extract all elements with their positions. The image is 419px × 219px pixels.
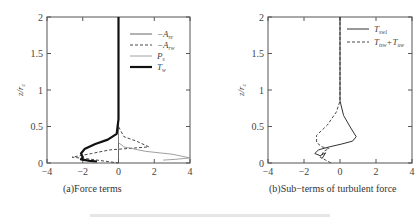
legend-entry: −Are <box>157 29 174 40</box>
y-axis-label: z/rc <box>236 83 247 97</box>
y-tick-label: 1.5 <box>31 48 44 59</box>
series-line <box>72 17 149 163</box>
x-tick-label: −4 <box>42 166 53 177</box>
y-tick-label: 2 <box>259 12 264 23</box>
x-tick-label: 4 <box>410 166 415 177</box>
y-axis-label: z/rc <box>15 83 26 97</box>
y-tick-label: 2 <box>38 12 43 23</box>
figure-caption-faint <box>90 214 330 217</box>
y-tick-label: 1 <box>38 85 43 96</box>
x-tick-label: 2 <box>152 166 157 177</box>
y-tick-label: 1.5 <box>252 48 265 59</box>
x-tick-label: 0 <box>116 166 121 177</box>
y-tick-label: 0.5 <box>252 121 265 132</box>
chart-panel-turbulent-subterms: −4−202400.511.52z/rcTsw1Ttsw+Tuw (b)Sub−… <box>210 0 419 200</box>
x-tick-label: −2 <box>299 166 310 177</box>
y-tick-label: 0 <box>259 158 264 169</box>
series-line <box>317 17 340 163</box>
series-line <box>315 17 356 159</box>
series-line <box>81 17 119 162</box>
panel-caption-a: (a)Force terms <box>63 183 122 194</box>
x-tick-label: −2 <box>77 166 88 177</box>
force-terms-plot: −4−202400.511.52z/rc−Are−ArwPsTw <box>0 0 210 200</box>
x-tick-label: −4 <box>263 166 274 177</box>
x-tick-label: 4 <box>188 166 193 177</box>
x-tick-label: 2 <box>374 166 379 177</box>
chart-panel-force-terms: −4−202400.511.52z/rc−Are−ArwPsTw (a)Forc… <box>0 0 210 200</box>
x-tick-label: 0 <box>338 166 343 177</box>
legend-entry: −Arw <box>157 40 175 51</box>
panel-caption-b: (b)Sub−terms of turbulent force <box>269 183 397 194</box>
legend-entry: Tw <box>157 62 166 73</box>
y-tick-label: 0.5 <box>31 121 44 132</box>
legend-entry: Ps <box>156 51 165 62</box>
legend-entry: Tsw1 <box>374 24 388 35</box>
turbulent-subterms-plot: −4−202400.511.52z/rcTsw1Ttsw+Tuw <box>210 0 419 200</box>
legend-entry: Ttsw+Tuw <box>374 37 404 48</box>
y-tick-label: 0 <box>38 158 43 169</box>
y-tick-label: 1 <box>259 85 264 96</box>
